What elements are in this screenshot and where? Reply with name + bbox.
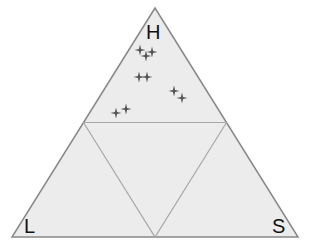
vertex-label-left: L <box>24 216 35 236</box>
vertex-label-right: S <box>272 216 285 236</box>
vertex-label-top: H <box>146 22 160 42</box>
